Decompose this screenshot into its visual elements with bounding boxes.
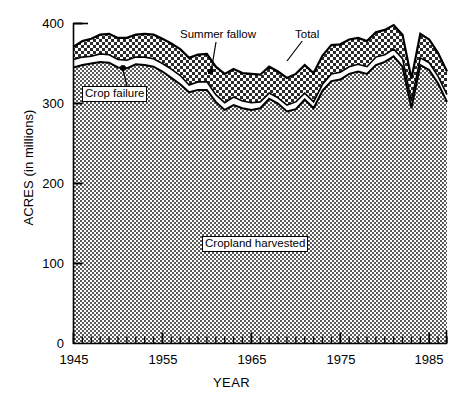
chart-figure: 400 300 200 100 0 1945 1955 1965 1975 19… (0, 0, 463, 405)
y-tick-label-0: 0 (24, 336, 64, 351)
x-tick-label-1945: 1945 (44, 352, 104, 367)
x-tick-label-1975: 1975 (311, 352, 371, 367)
annotation-summer-fallow: Summer fallow (179, 28, 257, 41)
annotation-crop-failure: Crop failure (82, 86, 147, 102)
annotation-cropland-harvested: Cropland harvested (202, 236, 308, 252)
annotation-total: Total (294, 28, 320, 41)
summer-fallow-leader-marker (208, 69, 213, 74)
x-tick-label-1985: 1985 (399, 352, 459, 367)
crop-failure-leader-marker (120, 65, 126, 71)
x-tick-label-1965: 1965 (222, 352, 282, 367)
acres-stacked-area-chart (0, 0, 463, 405)
y-axis-title: ACRES (in millions) (21, 78, 36, 258)
y-tick-label-400: 400 (24, 16, 64, 31)
y-tick-label-100: 100 (24, 256, 64, 271)
x-tick-label-1955: 1955 (133, 352, 193, 367)
x-axis-title: YEAR (0, 375, 463, 390)
